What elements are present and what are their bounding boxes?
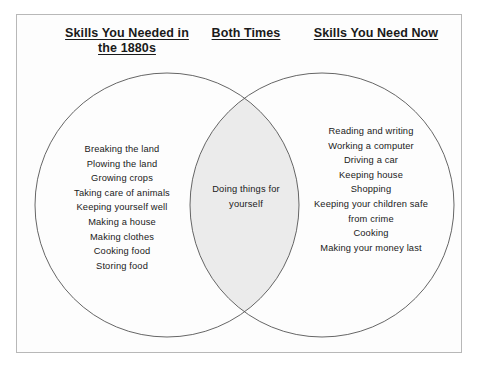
overlap-item-list: Doing things for yourself <box>196 182 296 212</box>
list-item: Breaking the land <box>36 142 208 157</box>
list-item: Keeping yourself well <box>36 200 208 215</box>
list-item: Reading and writing <box>288 124 454 139</box>
list-item: Keeping house <box>288 168 454 183</box>
list-item: Plowing the land <box>36 157 208 172</box>
list-item: Working a computer <box>288 139 454 154</box>
list-item: Making clothes <box>36 230 208 245</box>
list-item: Making a house <box>36 215 208 230</box>
heading-center-label: Both Times <box>212 26 281 40</box>
heading-overlap: Both Times <box>196 26 296 41</box>
list-item: from crime <box>288 212 454 227</box>
right-circle-item-list: Reading and writing Working a computer D… <box>288 124 454 255</box>
list-item: Driving a car <box>288 153 454 168</box>
list-item: Taking care of animals <box>36 186 208 201</box>
list-item: Making your money last <box>288 241 454 256</box>
list-item: Shopping <box>288 182 454 197</box>
list-item: Keeping your children safe <box>288 197 454 212</box>
list-item: Storing food <box>36 259 208 274</box>
list-item: yourself <box>196 197 296 212</box>
venn-diagram-page: Skills You Needed in the 1880s Both Time… <box>0 0 479 371</box>
heading-right-circle: Skills You Need Now <box>296 26 456 41</box>
list-item: Cooking <box>288 226 454 241</box>
list-item: Growing crops <box>36 171 208 186</box>
left-circle-item-list: Breaking the land Plowing the land Growi… <box>36 142 208 273</box>
heading-right-label: Skills You Need Now <box>314 26 438 40</box>
heading-left-line2: the 1880s <box>98 41 156 55</box>
heading-left-line1: Skills You Needed in <box>65 26 189 40</box>
list-item: Cooking food <box>36 244 208 259</box>
list-item: Doing things for <box>196 182 296 197</box>
heading-left-circle: Skills You Needed in the 1880s <box>38 26 216 56</box>
